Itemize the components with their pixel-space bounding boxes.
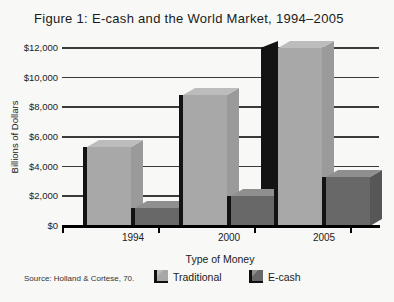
source-note: Source: Holland & Cortese, 70. <box>24 274 134 283</box>
bar-front-face <box>231 196 275 226</box>
legend-swatch-e-cash <box>249 270 263 283</box>
x-axis-tick <box>350 228 352 233</box>
y-tick-label-2000: $2,000 <box>0 190 58 201</box>
bar-e-cash-2005 <box>326 177 370 226</box>
y-tick-label-6000: $6,000 <box>0 131 58 142</box>
x-axis-title: Type of Money <box>186 253 255 265</box>
bar-e-cash-2000 <box>231 196 275 226</box>
chart-title: Figure 1: E-cash and the World Market, 1… <box>34 11 344 26</box>
bar-front-face <box>278 48 322 226</box>
legend-item-traditional: Traditional <box>154 270 222 283</box>
bar-front-face <box>135 208 179 226</box>
x-axis-tick <box>254 228 256 233</box>
legend-swatch-traditional <box>154 270 168 283</box>
figure-page: Figure 1: E-cash and the World Market, 1… <box>0 0 394 302</box>
x-axis-tick <box>62 228 64 233</box>
bar-e-cash-1994 <box>135 208 179 226</box>
y-tick-label-0: $0 <box>0 220 58 231</box>
legend-item-e-cash: E-cash <box>249 270 301 283</box>
bar-traditional-2000 <box>183 95 227 226</box>
bar-traditional-2005 <box>278 48 322 226</box>
y-tick-label-10000: $10,000 <box>0 72 58 83</box>
x-axis-line <box>62 225 380 228</box>
bar-front-face <box>87 147 131 226</box>
x-category-label-2005: 2005 <box>313 232 335 243</box>
x-category-label-2000: 2000 <box>218 232 240 243</box>
x-category-label-1994: 1994 <box>122 232 144 243</box>
bar-side-face <box>370 170 382 226</box>
y-tick-label-4000: $4,000 <box>0 161 58 172</box>
legend-label: Traditional <box>173 271 222 283</box>
bar-traditional-1994 <box>87 147 131 226</box>
x-axis-tick <box>158 228 160 233</box>
bar-front-face <box>183 95 227 226</box>
legend-label: E-cash <box>268 271 301 283</box>
bar-front-face <box>326 177 370 226</box>
y-tick-label-12000: $12,000 <box>0 42 58 53</box>
y-tick-label-8000: $8,000 <box>0 101 58 112</box>
